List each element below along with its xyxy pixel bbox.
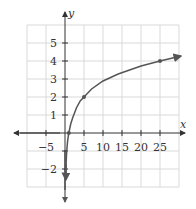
x-tick-label: 15	[115, 141, 129, 154]
y-axis-label: y	[67, 7, 75, 20]
x-tick-label: 5	[81, 141, 88, 154]
x-tick-label: 10	[96, 141, 110, 154]
y-tick-label: 5	[50, 37, 57, 50]
point-25-4	[158, 59, 162, 63]
x-axis-label: x	[180, 118, 187, 131]
log-function-graph: y x −5 5 10 15 20 25 5 4 3 2 1 −2	[0, 0, 196, 209]
y-tick-label: 4	[50, 55, 57, 68]
y-tick-label: 3	[50, 73, 57, 86]
y-tick-label: 1	[50, 109, 57, 122]
x-tick-label: 25	[153, 141, 167, 154]
y-tick-label: 2	[50, 91, 57, 104]
y-tick-label: −2	[41, 163, 57, 176]
point-5-2	[82, 95, 86, 99]
x-tick-label: 20	[134, 141, 148, 154]
x-tick-label: −5	[38, 141, 54, 154]
point-1-0	[67, 131, 71, 135]
